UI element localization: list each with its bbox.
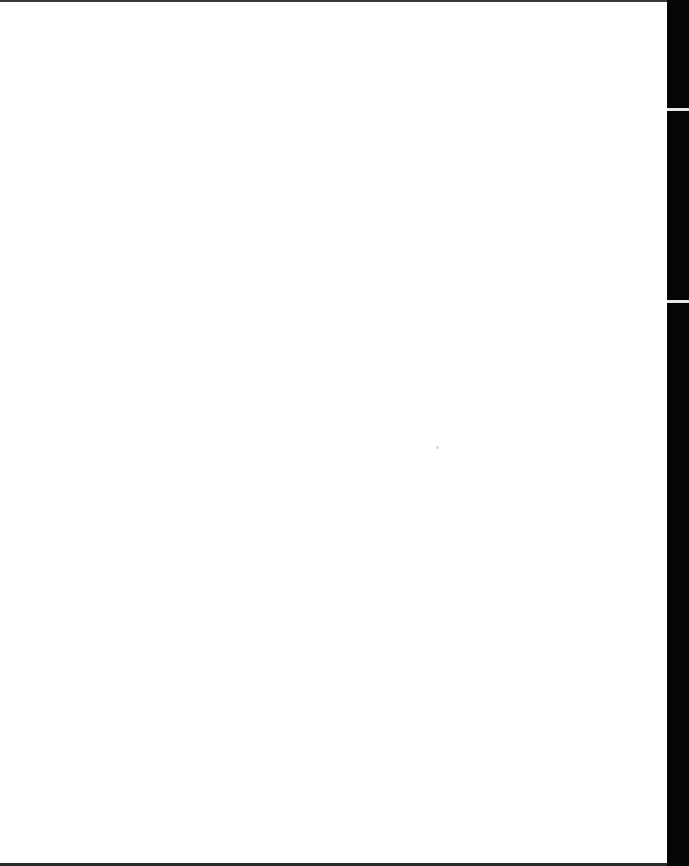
- scan-speck: [436, 446, 439, 449]
- scan-right-border: [667, 0, 689, 866]
- scan-artifact: [667, 108, 689, 111]
- scan-artifact: [667, 300, 689, 303]
- blank-page: [0, 2, 667, 863]
